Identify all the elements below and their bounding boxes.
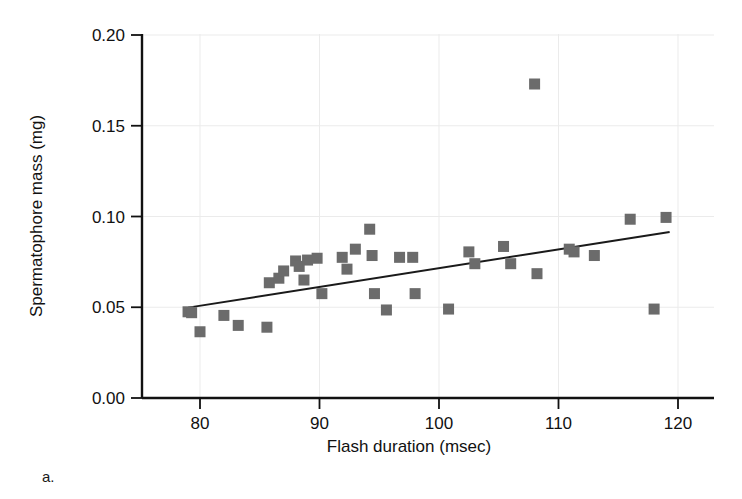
data-point-marker <box>529 79 540 90</box>
y-tick-label: 0.20 <box>92 26 125 45</box>
data-point-marker <box>261 322 272 333</box>
plot-canvas: 8090100110120 0.000.050.100.150.20 Flash… <box>0 0 742 499</box>
x-tick-label: 120 <box>664 414 692 433</box>
data-point-marker <box>337 252 348 263</box>
data-point-marker <box>407 252 418 263</box>
data-point-marker <box>341 264 352 275</box>
trendline-segment <box>188 232 670 308</box>
x-tick-label: 80 <box>191 414 210 433</box>
data-point-marker <box>364 224 375 235</box>
data-point-marker <box>625 214 636 225</box>
panel-label: a. <box>42 468 55 485</box>
data-points <box>183 79 672 338</box>
x-axis-ticks: 8090100110120 <box>191 398 693 433</box>
y-axis-label: Spermatophore mass (mg) <box>27 115 46 317</box>
data-point-marker <box>505 258 516 269</box>
data-point-marker <box>316 288 327 299</box>
x-tick-label: 110 <box>545 414 572 433</box>
data-point-marker <box>569 246 580 257</box>
y-axis-ticks: 0.000.050.100.150.20 <box>92 26 142 408</box>
data-point-marker <box>394 252 405 263</box>
x-tick-label: 100 <box>425 414 453 433</box>
data-point-marker <box>195 326 206 337</box>
y-tick-label: 0.05 <box>92 298 125 317</box>
data-point-marker <box>649 304 660 315</box>
data-point-marker <box>443 304 454 315</box>
data-point-marker <box>298 275 309 286</box>
data-point-marker <box>302 255 313 266</box>
data-point-marker <box>589 250 600 261</box>
data-point-marker <box>367 250 378 261</box>
data-point-marker <box>312 253 323 264</box>
data-point-marker <box>186 307 197 318</box>
scatter-plot-figure: 8090100110120 0.000.050.100.150.20 Flash… <box>0 0 742 499</box>
data-point-marker <box>498 241 509 252</box>
data-point-marker <box>350 244 361 255</box>
data-point-marker <box>278 265 289 276</box>
data-point-marker <box>463 246 474 257</box>
data-point-marker <box>218 310 229 321</box>
data-point-marker <box>531 268 542 279</box>
x-tick-label: 90 <box>310 414 329 433</box>
data-point-marker <box>381 304 392 315</box>
y-tick-label: 0.15 <box>92 117 125 136</box>
trendline <box>188 232 670 308</box>
data-point-marker <box>410 288 421 299</box>
y-tick-label: 0.10 <box>92 208 125 227</box>
data-point-marker <box>469 258 480 269</box>
data-point-marker <box>264 277 275 288</box>
x-axis-label: Flash duration (msec) <box>327 437 491 456</box>
data-point-marker <box>233 320 244 331</box>
data-point-marker <box>369 288 380 299</box>
data-point-marker <box>661 212 672 223</box>
y-tick-label: 0.00 <box>92 389 125 408</box>
